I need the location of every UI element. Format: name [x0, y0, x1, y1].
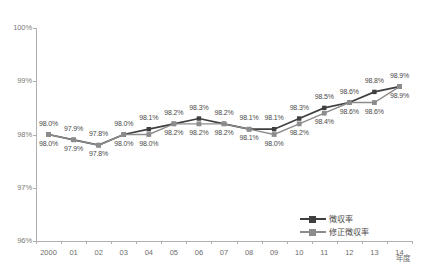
data-point-marker	[347, 100, 352, 105]
x-axis-tick-label: 11	[310, 248, 338, 257]
data-point-label: 98.9%	[383, 72, 415, 79]
x-axis-tick-label: 03	[110, 248, 138, 257]
data-point-marker	[222, 122, 226, 126]
x-axis-tick-label: 08	[235, 248, 263, 257]
data-point-marker	[96, 143, 100, 147]
data-point-marker	[347, 100, 351, 104]
data-point-marker	[46, 132, 50, 136]
data-point-marker	[172, 122, 176, 126]
y-tick-label: 100%	[2, 23, 32, 32]
x-axis-tick-label: 06	[185, 248, 213, 257]
data-point-marker	[372, 90, 376, 94]
x-tick-mark	[136, 241, 137, 244]
x-tick-mark	[362, 241, 363, 244]
data-point-marker	[71, 137, 76, 142]
line-chart: 96%97%98%99%100% 98.0%97.9%97.8%98.0%98.…	[0, 0, 426, 271]
data-point-marker	[122, 132, 126, 136]
y-tick-label: 98%	[2, 130, 32, 139]
data-point-label: 98.0%	[258, 140, 290, 147]
x-axis-tick-label: 12	[335, 248, 363, 257]
data-point-marker	[197, 116, 201, 120]
data-point-label: 98.4%	[308, 118, 340, 125]
data-point-marker	[197, 121, 202, 126]
x-axis-tick-label: 02	[85, 248, 113, 257]
x-axis-tick-label: 05	[160, 248, 188, 257]
data-point-marker	[322, 111, 327, 116]
x-axis-tick-label: 07	[210, 248, 238, 257]
data-point-label: 98.6%	[333, 88, 365, 95]
x-axis-line	[36, 241, 412, 242]
x-axis-tick-label: 10	[285, 248, 313, 257]
data-point-marker	[146, 132, 151, 137]
data-point-label: 98.0%	[133, 140, 165, 147]
x-tick-mark	[412, 241, 413, 244]
x-tick-mark	[387, 241, 388, 244]
x-tick-mark	[211, 241, 212, 244]
x-axis-tick-label: 04	[135, 248, 163, 257]
x-tick-mark	[262, 241, 263, 244]
data-point-marker	[372, 100, 377, 105]
y-tick-label: 96%	[2, 236, 32, 245]
x-tick-mark	[237, 241, 238, 244]
data-point-marker	[247, 127, 251, 131]
data-point-marker	[96, 143, 101, 148]
data-point-label: 98.1%	[258, 114, 290, 121]
legend-line-marker-icon	[300, 226, 326, 237]
x-tick-mark	[36, 241, 37, 244]
x-axis-tick-label: 13	[360, 248, 388, 257]
data-point-marker	[147, 127, 151, 131]
chart-legend: 徴収率 修正徴収率	[300, 212, 418, 238]
x-tick-mark	[186, 241, 187, 244]
data-point-marker	[397, 84, 401, 88]
y-tick-label: 99%	[2, 76, 32, 85]
data-point-marker	[297, 121, 302, 126]
x-axis-tick-label: 2000	[35, 248, 63, 257]
x-tick-mark	[337, 241, 338, 244]
x-axis-tick-label: 01	[60, 248, 88, 257]
data-point-label: 97.8%	[83, 150, 115, 157]
y-tick-mark	[33, 135, 37, 136]
data-point-marker	[272, 127, 276, 131]
legend-item-0: 徴収率	[300, 212, 418, 225]
data-point-marker	[247, 127, 252, 132]
x-axis-title: 年度	[396, 252, 410, 263]
x-tick-mark	[161, 241, 162, 244]
legend-item-1: 修正徴収率	[300, 225, 418, 238]
data-point-marker	[46, 132, 51, 137]
data-point-marker	[322, 106, 326, 110]
y-tick-mark	[33, 28, 37, 29]
data-point-marker	[171, 121, 176, 126]
legend-line-marker-icon	[300, 213, 326, 224]
y-tick-label: 97%	[2, 183, 32, 192]
x-tick-mark	[86, 241, 87, 244]
data-point-label: 98.9%	[383, 92, 415, 99]
y-tick-mark	[33, 81, 37, 82]
x-tick-mark	[61, 241, 62, 244]
x-axis-tick-label: 09	[260, 248, 288, 257]
x-tick-mark	[287, 241, 288, 244]
data-point-label: 98.2%	[283, 129, 315, 136]
data-point-label: 97.8%	[83, 130, 115, 137]
data-point-marker	[397, 84, 402, 89]
data-point-marker	[121, 132, 126, 137]
data-point-marker	[272, 132, 277, 137]
legend-label-0: 徴収率	[326, 213, 353, 224]
data-point-marker	[71, 138, 75, 142]
data-point-label: 98.3%	[283, 104, 315, 111]
legend-label-1: 修正徴収率	[326, 226, 369, 237]
data-point-marker	[222, 121, 227, 126]
y-tick-mark	[33, 188, 37, 189]
data-point-marker	[297, 116, 301, 120]
x-tick-mark	[312, 241, 313, 244]
data-point-label: 98.6%	[358, 108, 390, 115]
x-tick-mark	[111, 241, 112, 244]
